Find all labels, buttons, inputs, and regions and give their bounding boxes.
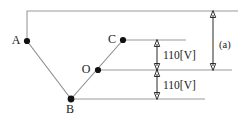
phasor-diagram-svg: A C O B 110[V] 110[V] (a) [0,0,238,119]
dimension-label-upper-110v: 110[V] [163,49,196,61]
phasor-line-a-b [27,41,71,99]
node-label-o: O [82,62,91,76]
node-label-a: A [12,33,21,47]
node-label-c: C [108,32,116,46]
dimension-lower-110v: 110[V] [154,70,195,100]
dimension-upper-110v: 110[V] [154,40,195,71]
node-dot-o [95,67,101,73]
dimension-label-total-a: (a) [219,39,231,51]
node-dot-a [24,38,30,44]
phasor-diagram-container: A C O B 110[V] 110[V] (a) [0,0,238,119]
dimension-total-a: (a) [210,11,231,71]
top-rail-line [27,11,238,41]
node-dot-c [120,37,126,43]
dimension-label-lower-110v: 110[V] [163,79,196,91]
node-label-b: B [66,102,74,116]
